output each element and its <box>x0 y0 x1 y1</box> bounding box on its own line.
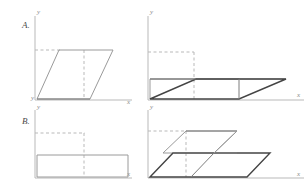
panel-sheared-rectangle: y x <box>148 103 304 178</box>
y-axis-label: y <box>36 103 41 111</box>
row-label-a: A. <box>21 20 30 30</box>
y-axis-label: y <box>149 103 154 111</box>
row-a: A. y x y y x <box>21 8 304 106</box>
x-axis-label: x <box>296 91 301 99</box>
panel-original-rectangle: y x <box>35 103 132 178</box>
row-b: B. y x y x <box>22 103 304 178</box>
rectangle-outline <box>37 155 128 177</box>
interior-diagonal-lower <box>191 153 214 177</box>
parallelogram-outline <box>37 50 113 99</box>
row-label-b: B. <box>22 116 30 126</box>
x-axis-label: x <box>126 98 131 106</box>
panel-sheared-parallelogram: y x <box>148 8 304 100</box>
interior-diagonal-upper <box>214 131 237 153</box>
y-axis-label: y <box>36 8 41 16</box>
x-axis-label: x <box>296 170 301 178</box>
figure-canvas: A. y x y y x <box>0 0 307 186</box>
y-axis-label: y <box>149 8 154 16</box>
shear-transformation-figure: A. y x y y x <box>0 0 307 186</box>
origin-y-label: y <box>30 94 35 102</box>
sheared-parallelogram-outline <box>150 79 286 99</box>
panel-original-parallelogram: y x y <box>30 8 132 106</box>
